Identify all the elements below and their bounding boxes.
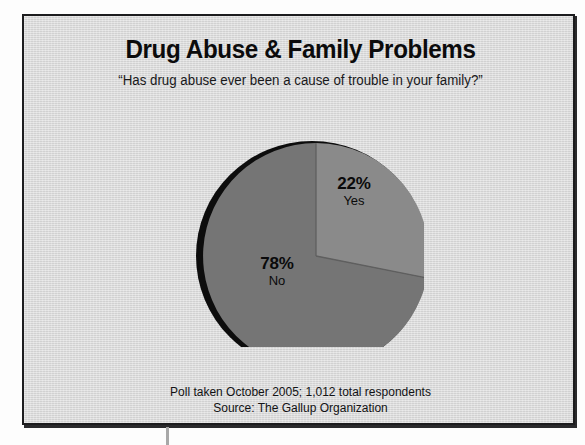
pie-label-yes: 22% Yes	[309, 174, 399, 209]
chart-subtitle: “Has drug abuse ever been a cause of tro…	[38, 72, 563, 88]
pie-chart-svg	[164, 102, 424, 347]
pie-label-yes-percent: 22%	[309, 174, 399, 193]
panel-bottom-tick	[166, 427, 169, 445]
chart-footnote: Poll taken October 2005; 1,012 total res…	[35, 384, 566, 416]
pie-chart	[164, 102, 424, 347]
figure-root: Drug Abuse & Family Problems “Has drug a…	[0, 0, 585, 445]
chart-panel: Drug Abuse & Family Problems “Has drug a…	[22, 14, 575, 425]
pie-label-no: 78% No	[232, 254, 322, 289]
pie-slice-yes[interactable]	[316, 143, 424, 278]
footnote-source-line: Source: The Gallup Organization	[35, 400, 566, 416]
pie-label-no-name: No	[232, 273, 322, 289]
footnote-poll-line: Poll taken October 2005; 1,012 total res…	[35, 384, 566, 400]
pie-label-no-percent: 78%	[232, 254, 322, 273]
pie-label-yes-name: Yes	[309, 193, 399, 209]
chart-title: Drug Abuse & Family Problems	[43, 34, 557, 65]
